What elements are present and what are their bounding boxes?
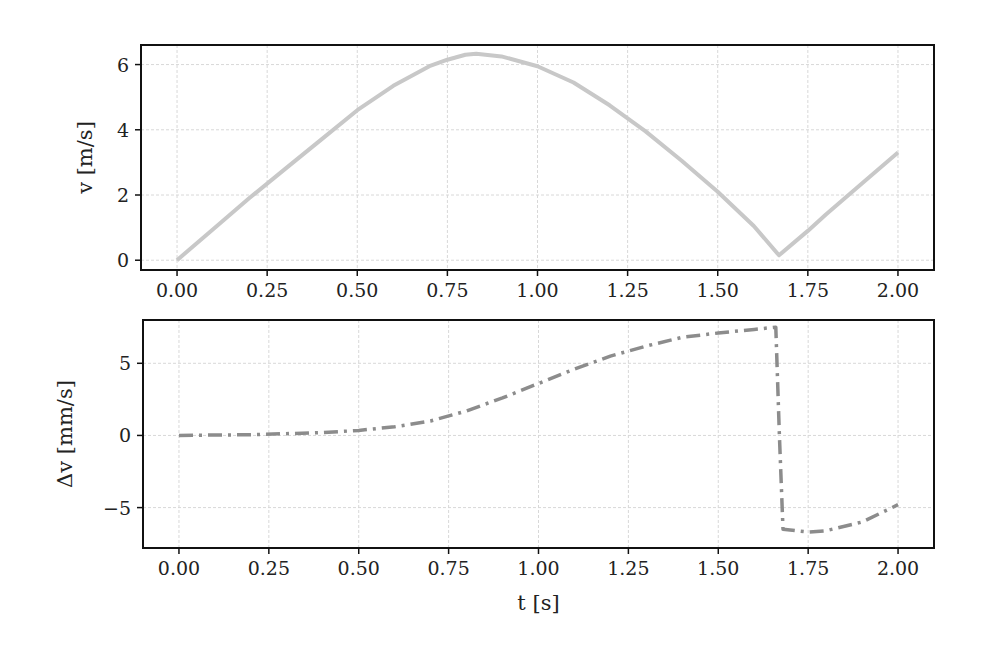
- y-axis-label: v [m/s]: [73, 121, 97, 195]
- x-tick-label: 1.50: [697, 557, 739, 579]
- y-tick-label: 2: [117, 184, 129, 206]
- y-tick-label: 0: [119, 424, 131, 446]
- bottom-plot: 0.000.250.500.751.001.251.501.752.00−505…: [53, 320, 934, 615]
- x-tick-label: 1.00: [517, 557, 559, 579]
- y-tick-label: −5: [103, 497, 131, 519]
- x-tick-label: 2.00: [877, 279, 919, 301]
- y-tick-label: 6: [117, 54, 129, 76]
- x-tick-label: 0.75: [427, 557, 469, 579]
- x-tick-label: 2.00: [877, 557, 919, 579]
- y-tick-label: 0: [117, 249, 129, 271]
- y-tick-label: 5: [119, 352, 131, 374]
- x-tick-label: 1.75: [787, 279, 829, 301]
- x-tick-label: 0.75: [426, 279, 468, 301]
- x-tick-label: 0.25: [248, 557, 290, 579]
- x-tick-label: 1.50: [697, 279, 739, 301]
- x-tick-label: 0.50: [336, 279, 378, 301]
- top-plot: 0.000.250.500.751.001.251.501.752.000246…: [73, 45, 934, 301]
- x-tick-label: 0.25: [246, 279, 288, 301]
- y-tick-label: 4: [117, 119, 129, 141]
- x-tick-label: 1.00: [516, 279, 558, 301]
- x-tick-label: 0.00: [156, 279, 198, 301]
- x-tick-label: 1.25: [606, 279, 648, 301]
- x-tick-label: 1.75: [787, 557, 829, 579]
- x-tick-label: 0.00: [158, 557, 200, 579]
- y-axis-label: Δv [mm/s]: [53, 380, 77, 488]
- axes-frame: [143, 320, 934, 548]
- x-tick-label: 0.50: [338, 557, 380, 579]
- chart-figure: 0.000.250.500.751.001.251.501.752.000246…: [0, 0, 987, 650]
- x-tick-label: 1.25: [607, 557, 649, 579]
- x-axis-label: t [s]: [517, 591, 559, 615]
